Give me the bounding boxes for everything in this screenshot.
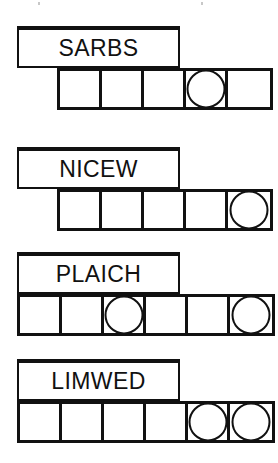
circle-marker-icon	[232, 403, 271, 442]
word-label-box: NICEW	[17, 147, 180, 189]
puzzle-sheet: SARBS NICEW PLAICH	[0, 0, 278, 463]
scrambled-word-text: LIMWED	[51, 370, 145, 393]
scrambled-word-text: NICEW	[59, 158, 138, 181]
circle-marker-icon	[188, 403, 227, 442]
answer-cell[interactable]	[228, 71, 270, 107]
scan-artifact-speck	[38, 2, 40, 5]
answer-cell[interactable]	[146, 404, 188, 440]
answer-grid	[17, 401, 275, 443]
answer-cell[interactable]	[62, 404, 104, 440]
answer-grid	[57, 189, 273, 231]
answer-cell[interactable]	[102, 192, 144, 228]
circle-marker-icon	[186, 70, 225, 109]
answer-cell[interactable]	[230, 404, 272, 440]
answer-cell[interactable]	[144, 71, 186, 107]
answer-cell[interactable]	[186, 71, 228, 107]
answer-cell[interactable]	[60, 192, 102, 228]
answer-cell[interactable]	[20, 297, 62, 333]
answer-cell[interactable]	[144, 192, 186, 228]
circle-marker-icon	[230, 191, 269, 230]
circle-marker-icon	[104, 296, 143, 335]
answer-cell[interactable]	[186, 192, 228, 228]
scrambled-word-text: SARBS	[59, 37, 139, 60]
answer-grid	[57, 68, 273, 110]
answer-cell[interactable]	[102, 71, 144, 107]
answer-cell[interactable]	[188, 404, 230, 440]
answer-cell[interactable]	[146, 297, 188, 333]
answer-cell[interactable]	[104, 404, 146, 440]
circle-marker-icon	[232, 296, 271, 335]
answer-cell[interactable]	[60, 71, 102, 107]
answer-cell[interactable]	[104, 297, 146, 333]
word-label-box: PLAICH	[17, 252, 180, 294]
scan-artifact-speck	[201, 2, 203, 5]
answer-grid	[17, 294, 275, 336]
scrambled-word-text: PLAICH	[56, 263, 141, 286]
answer-cell[interactable]	[20, 404, 62, 440]
word-label-box: SARBS	[17, 26, 180, 68]
answer-cell[interactable]	[188, 297, 230, 333]
answer-cell[interactable]	[230, 297, 272, 333]
word-label-box: LIMWED	[17, 359, 180, 401]
answer-cell[interactable]	[62, 297, 104, 333]
answer-cell[interactable]	[228, 192, 270, 228]
